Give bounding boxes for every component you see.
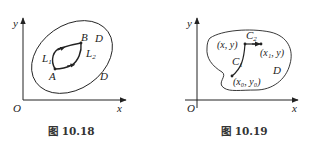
point-end-label: (x₁, y) [260,47,285,59]
x-axis-label: x [116,102,122,114]
point-b-label: B [81,31,88,43]
curve-l2-label: L2 [85,47,96,61]
figure-10-19: y x O (x, y) (x₁, y) (x₀, y₀) C1 C2 D 图 … [185,17,298,137]
point-end [260,43,263,46]
x-axis-label: x [291,102,297,114]
region-d-label-top: D [94,32,103,44]
curve-c2-label: C2 [246,29,257,43]
point-a-label: A [48,70,56,82]
region-d-label: D [272,64,281,76]
y-axis-label: y [186,17,192,29]
region-d-boundary [18,6,127,109]
curve-l1 [53,43,81,69]
l2-direction-arrow [67,65,73,66]
figure-caption: 图 10.19 [221,125,268,137]
curve-l1-label: L1 [41,52,52,66]
curve-c1-label: C1 [232,55,243,69]
figure-10-18: y x O A B L1 L2 D D 图 10.18 [12,6,126,137]
point-mid [244,43,247,46]
figure-caption: 图 10.18 [48,125,95,137]
region-d-label-bottom: D [99,70,108,82]
origin-label: O [187,102,195,114]
curve-l2 [55,43,81,69]
point-mid-label: (x, y) [217,39,238,51]
figures-canvas: y x O A B L1 L2 D D 图 10.18 y x O [0,0,313,142]
point-start-label: (x₀, y₀) [233,76,261,88]
origin-label: O [13,102,21,114]
y-axis-label: y [12,17,18,29]
